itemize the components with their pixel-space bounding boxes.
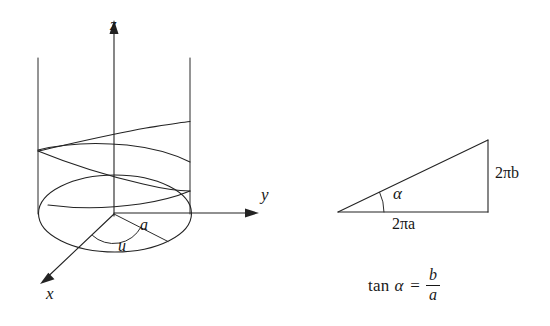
angle-u-arc	[93, 227, 142, 244]
triangle-height-label: 2πb	[495, 165, 519, 181]
angle-label-u: u	[118, 238, 126, 254]
formula-tan-alpha: tan α = b a	[368, 268, 440, 305]
axis-label-y: y	[261, 186, 269, 203]
formula-function: tan	[368, 276, 389, 296]
formula-fraction: b a	[426, 267, 440, 304]
figure-canvas	[0, 0, 550, 326]
y-axis	[114, 209, 259, 218]
radius-label-a: a	[140, 217, 148, 233]
x-axis	[40, 214, 114, 284]
angle-label-alpha: α	[393, 185, 402, 202]
formula-equals: =	[408, 276, 422, 296]
slope-triangle	[338, 140, 488, 212]
figure-root: z y x a u α 2πa 2πb tan α = b a	[0, 0, 550, 326]
formula-angle: α	[393, 276, 404, 296]
triangle-base-label: 2πa	[392, 216, 415, 232]
axis-label-z: z	[110, 16, 117, 33]
axis-label-x: x	[46, 285, 54, 302]
z-axis	[110, 20, 119, 216]
formula-denominator: a	[426, 287, 440, 304]
formula-numerator: b	[426, 267, 440, 284]
angle-alpha-arc	[380, 192, 384, 212]
